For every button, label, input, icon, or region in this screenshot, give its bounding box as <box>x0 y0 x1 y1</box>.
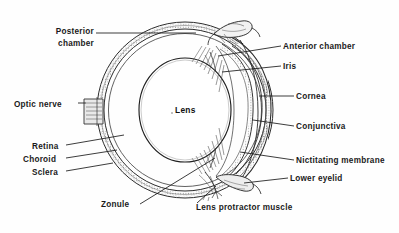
leader-conjunctiva <box>253 120 294 126</box>
label-posterior-chamber: Posterior chamber <box>48 26 94 49</box>
eye-anatomy-figure: Lens Posterior chamber Optic nerve Retin… <box>0 0 399 233</box>
leader-retina <box>66 135 124 145</box>
label-posterior-chamber-line1: Posterior <box>56 27 94 36</box>
label-lens-protractor-muscle: Lens protractor muscle <box>196 202 293 213</box>
leader-iris <box>222 66 281 72</box>
label-optic-nerve: Optic nerve <box>14 99 62 110</box>
label-posterior-chamber-line2: chamber <box>58 39 94 48</box>
label-iris: Iris <box>283 61 296 72</box>
label-nictitating-membrane: Nictitating membrane <box>296 155 385 166</box>
label-cornea: Cornea <box>296 91 326 102</box>
label-anterior-chamber: Anterior chamber <box>283 41 355 52</box>
lens-label: Lens <box>175 105 196 115</box>
label-sclera: Sclera <box>32 167 58 178</box>
label-lower-eyelid: Lower eyelid <box>290 173 343 184</box>
label-retina: Retina <box>32 141 59 152</box>
leader-sclera <box>66 163 113 171</box>
label-conjunctiva: Conjunctiva <box>296 121 346 132</box>
optic-nerve <box>84 97 103 126</box>
label-choroid: Choroid <box>23 154 56 165</box>
label-zonule: Zonule <box>101 199 129 210</box>
